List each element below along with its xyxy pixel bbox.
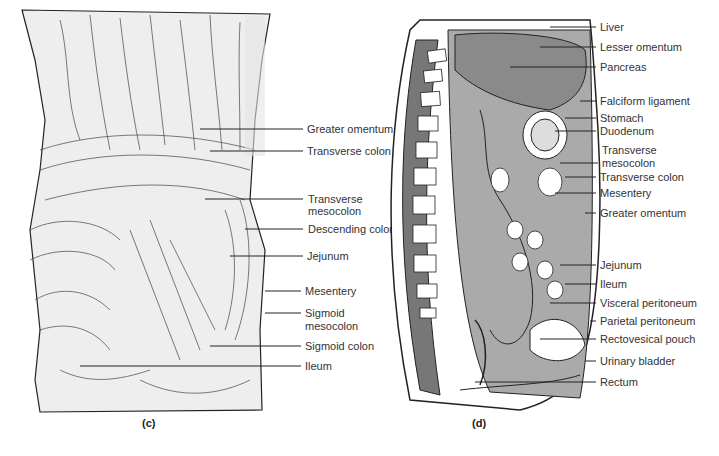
label-parietal-peritoneum: Parietal peritoneum <box>600 315 695 327</box>
label-sigmoid-colon: Sigmoid colon <box>305 340 374 352</box>
label-greater-omentum-d: Greater omentum <box>600 207 686 219</box>
label-transverse-mesocolon-line1: Transverse <box>308 193 363 205</box>
label-mesentery-d: Mesentery <box>600 187 651 199</box>
panel-c-leader-lines <box>0 0 320 400</box>
label-transverse-mesocolon-d-line2: mesocolon <box>602 157 655 169</box>
label-jejunum-d: Jejunum <box>600 259 642 271</box>
label-sigmoid-mesocolon-line1: Sigmoid <box>305 307 345 319</box>
panel-c-illustration: (c) <box>0 0 300 456</box>
label-jejunum: Jejunum <box>307 250 349 262</box>
label-transverse-mesocolon-line2: mesocolon <box>308 205 361 217</box>
label-liver: Liver <box>600 21 624 33</box>
label-sigmoid-mesocolon-line2: mesocolon <box>305 320 358 332</box>
label-ileum: Ileum <box>305 360 332 372</box>
label-rectovesical-pouch: Rectovesical pouch <box>600 333 695 345</box>
panel-d-illustration: (d) <box>380 0 719 456</box>
label-falciform-ligament: Falciform ligament <box>600 95 690 107</box>
label-duodenum: Duodenum <box>600 125 654 137</box>
panel-c-caption: (c) <box>142 417 155 429</box>
label-ileum-d: Ileum <box>600 278 627 290</box>
label-visceral-peritoneum: Visceral peritoneum <box>600 297 697 309</box>
label-pancreas: Pancreas <box>600 61 646 73</box>
panel-d-caption: (d) <box>472 417 486 429</box>
label-lesser-omentum: Lesser omentum <box>600 41 682 53</box>
label-transverse-mesocolon-d-line1: Transverse <box>602 144 657 156</box>
label-mesentery: Mesentery <box>305 285 356 297</box>
label-stomach: Stomach <box>600 112 643 124</box>
label-rectum: Rectum <box>600 376 638 388</box>
label-transverse-colon: Transverse colon <box>307 145 391 157</box>
label-urinary-bladder: Urinary bladder <box>600 355 675 367</box>
label-transverse-colon-d: Transverse colon <box>600 171 684 183</box>
